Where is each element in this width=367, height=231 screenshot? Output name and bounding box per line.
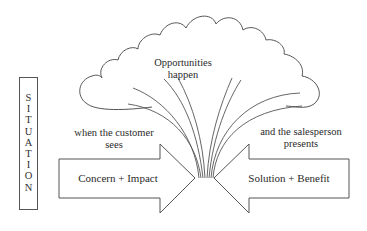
situation-letter: T: [20, 114, 37, 125]
cloud-label: Opportunities happen: [154, 57, 212, 81]
salesperson-caption-line2: presents: [260, 138, 342, 150]
situation-letter: T: [20, 148, 37, 159]
customer-caption: when the customer sees: [74, 127, 153, 151]
situation-box: S I T U A T I O N: [19, 77, 38, 210]
cloud-label-line1: Opportunities: [154, 57, 212, 69]
concern-impact-label: Concern + Impact: [78, 172, 158, 184]
situation-label: S I T U A T I O N: [20, 92, 37, 193]
situation-letter: O: [20, 170, 37, 181]
diagram-canvas: [0, 0, 367, 231]
situation-letter: S: [20, 92, 37, 103]
salesperson-caption-line1: and the salesperson: [260, 126, 342, 138]
situation-letter: N: [20, 182, 37, 193]
situation-letter: U: [20, 126, 37, 137]
situation-letter: I: [20, 159, 37, 170]
solution-benefit-label: Solution + Benefit: [248, 172, 329, 184]
situation-letter: I: [20, 103, 37, 114]
cloud-label-line2: happen: [154, 69, 212, 81]
customer-caption-line1: when the customer: [74, 127, 153, 139]
customer-caption-line2: sees: [74, 139, 153, 151]
salesperson-caption: and the salesperson presents: [260, 126, 342, 150]
situation-letter: A: [20, 137, 37, 148]
